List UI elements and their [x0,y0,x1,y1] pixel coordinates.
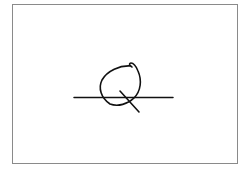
sketch-drawing [0,0,252,169]
loop-stroke [100,63,140,105]
